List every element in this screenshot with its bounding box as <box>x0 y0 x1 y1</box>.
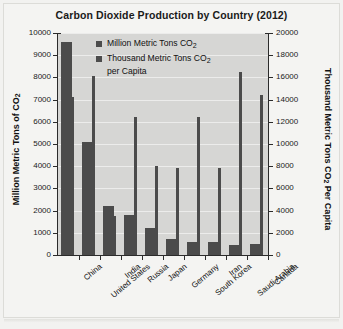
bar-per-capita <box>176 168 179 255</box>
y-tick-left <box>53 144 58 145</box>
x-tick <box>184 256 185 260</box>
y-tick-label-left: 5000 <box>0 140 51 148</box>
chart-title: Carbon Dioxide Production by Country (20… <box>0 9 343 21</box>
y-tick-label-left: 6000 <box>0 118 51 126</box>
x-tick <box>142 256 143 260</box>
y-tick-label-right: 20000 <box>276 29 298 37</box>
page-edge-shadow <box>4 319 339 323</box>
y-axis-right-title: Thousand Metric Tons CO2 Per Capita <box>323 49 334 249</box>
x-tick <box>79 256 80 260</box>
bar-per-capita <box>155 166 158 255</box>
legend-label: Thousand Metric Tons CO2per Capita <box>107 53 211 78</box>
y-tick-label-left: 1000 <box>0 229 51 237</box>
y-tick-right <box>268 33 273 34</box>
bar-per-capita <box>260 95 263 255</box>
y-tick-left <box>53 33 58 34</box>
y-tick-left <box>53 55 58 56</box>
y-tick-left <box>53 166 58 167</box>
y-tick-right <box>268 77 273 78</box>
grid-line <box>58 122 268 123</box>
bar-per-capita <box>197 117 200 255</box>
y-tick-label-left: 4000 <box>0 162 51 170</box>
x-tick <box>226 256 227 260</box>
y-tick-label-left: 3000 <box>0 184 51 192</box>
y-tick-right <box>268 188 273 189</box>
y-tick-right <box>268 166 273 167</box>
y-tick-right <box>268 100 273 101</box>
y-tick-label-right: 10000 <box>276 140 298 148</box>
y-tick-label-left: 9000 <box>0 51 51 59</box>
y-tick-label-right: 8000 <box>276 162 294 170</box>
bar-per-capita <box>113 216 116 255</box>
y-tick-label-right: 14000 <box>276 96 298 104</box>
y-tick-left <box>53 188 58 189</box>
y-tick-right <box>268 144 273 145</box>
subscript-2: 2 <box>323 179 330 183</box>
y-axis-left-title: Million Metric Tons of CO2 <box>11 69 22 229</box>
subscript-2: 2 <box>14 93 21 97</box>
y-tick-left <box>53 255 58 256</box>
y-tick-right <box>268 122 273 123</box>
y-tick-right <box>268 211 273 212</box>
bar-per-capita <box>218 168 221 255</box>
grid-line <box>58 100 268 101</box>
chart-screenshot: Carbon Dioxide Production by Country (20… <box>0 0 343 329</box>
legend-item: Thousand Metric Tons CO2per Capita <box>96 53 211 78</box>
grid-line <box>58 33 268 34</box>
y-tick-left <box>53 233 58 234</box>
legend: Million Metric Tons CO2 Thousand Metric … <box>96 38 211 80</box>
x-tick <box>121 256 122 260</box>
y-tick-label-right: 2000 <box>276 229 294 237</box>
y-tick-label-right: 0 <box>276 251 280 259</box>
y-tick-left <box>53 77 58 78</box>
x-tick <box>247 256 248 260</box>
y-tick-right <box>268 55 273 56</box>
y-tick-label-left: 7000 <box>0 96 51 104</box>
y-tick-label-left: 2000 <box>0 207 51 215</box>
y-tick-right <box>268 233 273 234</box>
x-tick <box>100 256 101 260</box>
legend-swatch-icon <box>96 41 102 47</box>
y-tick-label-left: 10000 <box>0 29 51 37</box>
x-tick <box>205 256 206 260</box>
bar-per-capita <box>239 72 242 255</box>
y-tick-left <box>53 122 58 123</box>
legend-label: Million Metric Tons CO2 <box>107 38 197 51</box>
y-tick-left <box>53 100 58 101</box>
bar-per-capita <box>71 97 74 255</box>
y-tick-label-right: 16000 <box>276 73 298 81</box>
legend-swatch-icon <box>96 56 102 62</box>
y-tick-label-right: 6000 <box>276 184 294 192</box>
x-tick <box>163 256 164 260</box>
bar-per-capita <box>92 76 95 255</box>
bar-per-capita <box>134 117 137 255</box>
y-tick-label-right: 12000 <box>276 118 298 126</box>
y-tick-label-left: 8000 <box>0 73 51 81</box>
y-tick-left <box>53 211 58 212</box>
x-tick <box>268 256 269 260</box>
y-tick-label-right: 18000 <box>276 51 298 59</box>
legend-item: Million Metric Tons CO2 <box>96 38 211 51</box>
y-tick-label-left: 0 <box>0 251 51 259</box>
y-tick-label-right: 4000 <box>276 207 294 215</box>
